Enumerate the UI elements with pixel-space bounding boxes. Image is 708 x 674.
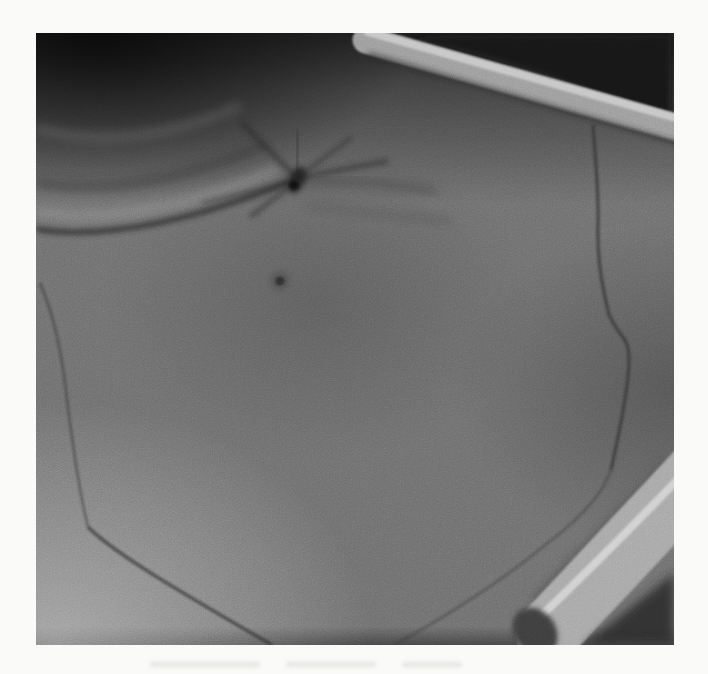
page	[0, 0, 708, 674]
showthrough-mark	[286, 662, 376, 667]
showthrough-mark	[402, 662, 462, 667]
photo-render	[36, 33, 674, 645]
film-grain-overlay	[36, 33, 674, 645]
showthrough-mark	[150, 662, 260, 667]
showthrough-marks	[150, 659, 480, 670]
clinical-photograph	[36, 33, 674, 645]
